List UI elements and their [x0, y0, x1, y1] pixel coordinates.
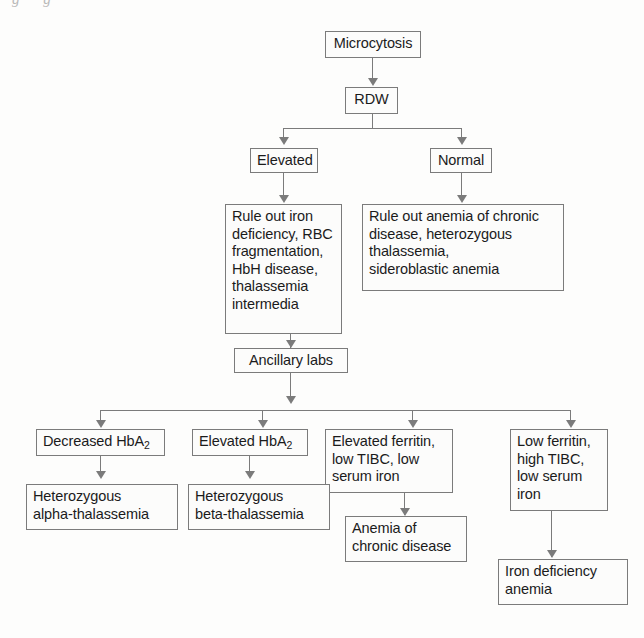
edge-ancillary-split-bar: [100, 410, 570, 411]
edge-elevatedferritin-anemiachronic-arrow: [400, 508, 410, 516]
node-rule-out-anemia-chronic-disease: Rule out anemia of chronic disease, hete…: [362, 204, 564, 291]
node-decreased-hba2-label: Decreased HbA: [43, 433, 144, 449]
node-elevated: Elevated: [250, 148, 318, 173]
node-rule-out-iron-deficiency: Rule out iron deficiency, RBC fragmentat…: [225, 204, 342, 334]
edge-ancillary-col2-arrow: [258, 420, 268, 428]
edge-rdw-elevated-arrow: [279, 137, 289, 145]
node-low-ferritin: Low ferritin, high TIBC, low serum iron: [510, 429, 608, 511]
node-iron-deficiency-anemia: Iron deficiency anemia: [498, 559, 628, 605]
node-heterozygous-alpha-thalassemia: Heterozygous alpha-thalassemia: [26, 484, 178, 530]
node-microcytosis: Microcytosis: [325, 31, 421, 58]
node-elevated-hba2: Elevated HbA2: [192, 429, 308, 456]
edge-rdw-stem: [372, 114, 373, 129]
edge-elevatedhba2-heterobeta-arrow: [245, 471, 255, 479]
edge-ruleoutiron-ancillary-arrow: [286, 340, 296, 348]
node-elevated-hba2-label: Elevated HbA: [199, 433, 286, 449]
edge-decreasedhba2-heteroalpha-arrow: [96, 471, 106, 479]
edge-normal-ruleoutacd-line: [461, 173, 462, 197]
node-elevated-ferritin: Elevated ferritin, low TIBC, low serum i…: [325, 429, 453, 493]
edge-rdw-split-bar: [283, 128, 462, 129]
node-ancillary-labs: Ancillary labs: [234, 348, 348, 373]
edge-microcytosis-rdw-line: [372, 58, 373, 80]
edge-normal-ruleoutacd-arrow: [457, 195, 467, 203]
node-decreased-hba2-subscript: 2: [144, 439, 150, 451]
node-rdw: RDW: [345, 87, 398, 114]
node-decreased-hba2: Decreased HbA2: [36, 429, 165, 456]
node-heterozygous-beta-thalassemia: Heterozygous beta-thalassemia: [188, 484, 330, 530]
edge-ancillary-col3-arrow: [408, 420, 418, 428]
edge-microcytosis-rdw-arrow: [368, 78, 378, 86]
node-normal: Normal: [430, 148, 492, 173]
node-elevated-hba2-subscript: 2: [286, 439, 292, 451]
node-anemia-of-chronic-disease: Anemia of chronic disease: [345, 516, 467, 562]
edge-lowferritin-irondeficiency-arrow: [547, 550, 557, 558]
edge-rdw-normal-arrow: [457, 137, 467, 145]
edge-ancillary-col4-arrow: [566, 420, 576, 428]
edge-ancillary-stem-arrow: [286, 396, 296, 404]
edge-elevated-ruleoutiron-line: [283, 173, 284, 197]
edge-ancillary-col1-arrow: [96, 420, 106, 428]
edge-elevated-ruleoutiron-arrow: [279, 195, 289, 203]
flowchart-page: g g Microcytosis RDW Elevated Normal Rul…: [0, 0, 644, 638]
page-crop-artifact-text: g g: [12, 0, 61, 8]
